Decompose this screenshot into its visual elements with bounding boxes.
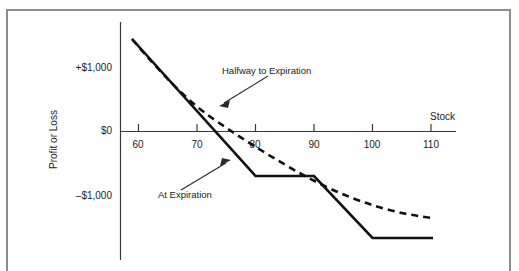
y-axis-title: Profit or Loss (48, 110, 59, 169)
x-tick-label-80: 80 (238, 140, 272, 150)
halfway-annotation-label: Halfway to Expiration (222, 66, 311, 76)
at-expiration-annotation-arrow-line (181, 163, 226, 190)
at-expiration-annotation-arrow-head (220, 158, 231, 166)
x-tick-label-70: 70 (180, 140, 214, 150)
x-tick-label-110: 110 (414, 140, 448, 150)
x-tick-label-100: 100 (355, 140, 389, 150)
x-tick-label-60: 60 (121, 140, 155, 150)
x-axis-title: Stock (430, 112, 455, 122)
halfway-annotation-arrow-head (219, 100, 230, 108)
halfway-annotation-arrow-line (224, 76, 268, 103)
x-tick-label-90: 90 (297, 140, 331, 150)
y-tick-label-zero: $0 (50, 126, 112, 136)
y-tick-label-minus-1000: –$1,000 (50, 191, 112, 201)
y-tick-label-plus-1000: +$1,000 (50, 63, 112, 73)
at-expiration-annotation-label: At Expiration (158, 190, 212, 200)
